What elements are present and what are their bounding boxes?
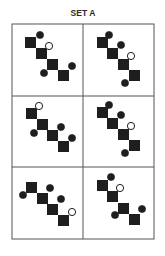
square-shape bbox=[26, 108, 37, 119]
panel-4 bbox=[97, 101, 140, 156]
filled-circle-shape bbox=[105, 101, 112, 108]
panel-5 bbox=[19, 182, 75, 226]
panel-1 bbox=[25, 31, 76, 81]
filled-circle-shape bbox=[68, 134, 75, 141]
filled-circle-shape bbox=[117, 111, 124, 118]
open-circle-shape bbox=[127, 122, 134, 129]
filled-circle-shape bbox=[68, 62, 75, 69]
square-shape bbox=[58, 70, 69, 81]
square-shape bbox=[129, 70, 140, 81]
filled-circle-shape bbox=[107, 173, 114, 180]
square-shape bbox=[97, 37, 108, 48]
square-shape bbox=[129, 214, 140, 225]
open-circle-shape bbox=[127, 52, 134, 59]
filled-circle-shape bbox=[36, 31, 43, 38]
square-shape bbox=[47, 130, 58, 141]
square-shape bbox=[37, 193, 48, 204]
filled-circle-shape bbox=[117, 41, 124, 48]
square-shape bbox=[58, 141, 69, 152]
square-shape bbox=[47, 59, 58, 70]
filled-circle-shape bbox=[40, 69, 47, 76]
open-circle-shape bbox=[116, 184, 123, 191]
open-circle-shape bbox=[68, 208, 75, 215]
square-shape bbox=[36, 48, 47, 59]
filled-circle-shape bbox=[111, 211, 118, 218]
panel-3 bbox=[26, 102, 76, 152]
filled-circle-shape bbox=[57, 195, 64, 202]
panel-2 bbox=[97, 31, 140, 86]
filled-circle-shape bbox=[105, 31, 112, 38]
panels bbox=[19, 31, 145, 226]
open-circle-shape bbox=[35, 102, 42, 109]
filled-circle-shape bbox=[121, 149, 128, 156]
open-circle-shape bbox=[45, 42, 52, 49]
square-shape bbox=[47, 204, 58, 215]
panel-6 bbox=[97, 173, 146, 225]
filled-circle-shape bbox=[46, 184, 53, 191]
filled-circle-shape bbox=[57, 123, 64, 130]
square-shape bbox=[26, 182, 37, 193]
square-shape bbox=[107, 48, 118, 59]
filled-circle-shape bbox=[30, 129, 37, 136]
filled-circle-shape bbox=[121, 79, 128, 86]
square-shape bbox=[118, 129, 129, 140]
square-shape bbox=[107, 191, 118, 202]
filled-circle-shape bbox=[138, 205, 145, 212]
puzzle-grid bbox=[0, 0, 165, 256]
square-shape bbox=[25, 37, 36, 48]
square-shape bbox=[107, 118, 118, 129]
filled-circle-shape bbox=[19, 191, 26, 198]
square-shape bbox=[97, 180, 108, 191]
square-shape bbox=[37, 119, 48, 130]
square-shape bbox=[129, 140, 140, 151]
square-shape bbox=[97, 107, 108, 118]
square-shape bbox=[118, 59, 129, 70]
square-shape bbox=[58, 215, 69, 226]
square-shape bbox=[118, 203, 129, 214]
